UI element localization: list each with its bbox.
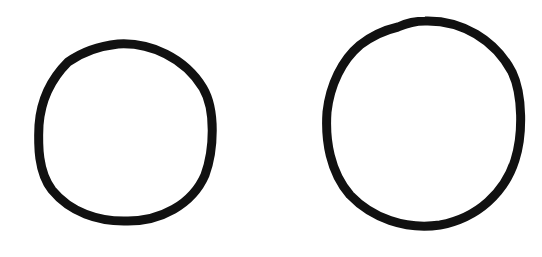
drawing-canvas <box>0 0 542 257</box>
left-circle-shape <box>39 44 213 221</box>
right-circle-shape <box>327 21 521 226</box>
circles-diagram <box>0 0 542 257</box>
